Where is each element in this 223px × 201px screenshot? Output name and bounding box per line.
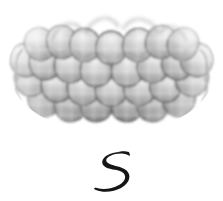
caption-numeral: 5 [0, 138, 223, 201]
caption-numeral-text: 5 [0, 138, 1, 139]
illustration-page: 5 Arched overlapping scale pattern Grays… [0, 0, 223, 201]
